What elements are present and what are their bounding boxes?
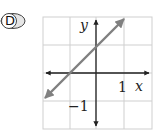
axes [46, 20, 149, 126]
y-axis-label: y [80, 18, 88, 32]
x-axis-label: x [135, 79, 143, 93]
x-tick-label: 1 [118, 80, 127, 94]
y-tick-label: −1 [68, 99, 89, 113]
